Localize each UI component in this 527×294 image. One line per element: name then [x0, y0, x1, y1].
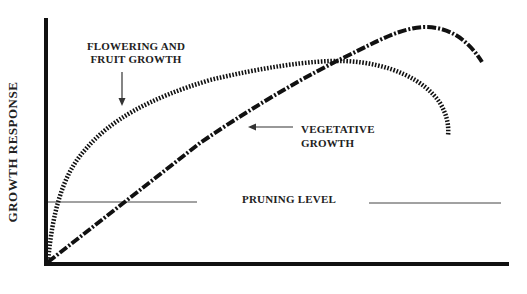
vegetative-arrow-icon — [248, 124, 293, 131]
y-axis-label: GROWTH RESPONSE — [5, 82, 20, 223]
flowering-label-line1: FLOWERING AND — [87, 40, 185, 52]
pruning-level-label: PRUNING LEVEL — [242, 193, 336, 205]
vegetative-label-line2: GROWTH — [301, 137, 354, 149]
flowering-label-line2: FRUIT GROWTH — [90, 53, 181, 65]
flowering-fruit-growth-curve — [48, 61, 448, 262]
growth-response-diagram: GROWTH RESPONSE PRUNING LEVEL FLOWERING … — [0, 0, 527, 294]
flowering-arrow-icon — [119, 72, 126, 106]
vegetative-label-line1: VEGETATIVE — [301, 123, 375, 135]
